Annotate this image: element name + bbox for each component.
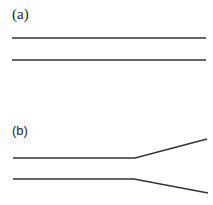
diagram-canvas	[0, 0, 213, 205]
panel-b-lines	[13, 139, 208, 193]
panel-b-line-2	[13, 179, 208, 193]
panel-b-line-1	[13, 139, 207, 158]
panel-a-lines	[12, 38, 206, 60]
